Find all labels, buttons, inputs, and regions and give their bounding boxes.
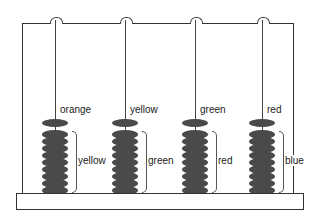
brace-icon	[72, 131, 77, 193]
stack-label: yellow	[78, 155, 106, 166]
brace-icon	[212, 131, 217, 193]
brace-icon	[279, 131, 284, 193]
abacus-base	[16, 193, 304, 210]
rod-hook-icon	[120, 17, 133, 24]
rod-hook-icon	[257, 17, 270, 24]
top-bead-label: yellow	[130, 104, 158, 115]
top-bead-label: orange	[60, 104, 91, 115]
single-bead	[182, 119, 208, 127]
frame-left-post	[22, 23, 23, 193]
top-bead-label: green	[200, 104, 226, 115]
frame-right-post	[293, 23, 294, 193]
single-bead	[42, 119, 68, 127]
rod-hook-icon	[190, 17, 203, 24]
stack-label: blue	[285, 155, 304, 166]
top-bead-label: red	[267, 104, 281, 115]
rod-hook-icon	[50, 17, 63, 24]
single-bead	[112, 119, 138, 127]
stack-label: green	[148, 155, 174, 166]
single-bead	[249, 119, 275, 127]
brace-icon	[142, 131, 147, 193]
stack-label: red	[218, 155, 232, 166]
